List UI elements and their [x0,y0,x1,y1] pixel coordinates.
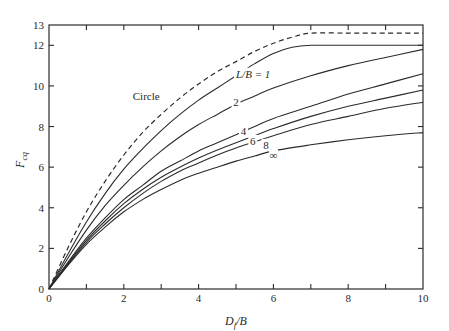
curve-l-b-6 [49,90,423,289]
y-tick-label: 13 [33,19,45,31]
y-tick-label: 10 [33,80,45,92]
curve-label: Circle [133,90,160,102]
curve-labels-group: CircleL/B = 12468∞ [133,68,278,161]
x-tick-label: 2 [121,292,127,304]
curve-label: 2 [233,96,239,108]
y-axis: 02468101213 [33,19,423,295]
x-tick-label: 6 [271,292,277,304]
breakout-factor-chart: CircleL/B = 12468∞ 0246810 02468101213 D… [0,0,449,331]
y-tick-label: 4 [39,202,45,214]
curve-l-b-8 [49,102,423,289]
y-tick-label: 2 [39,242,45,254]
curve-label: 8 [263,139,269,151]
curve-label: L/B = 1 [235,68,270,80]
curve-label: 4 [241,125,247,137]
y-tick-label: 8 [39,121,45,133]
x-tick-label: 0 [46,292,52,304]
plot-frame [49,25,423,289]
x-tick-label: 4 [196,292,202,304]
curve-l-b-infinity [49,133,423,289]
y-tick-label: 12 [33,39,44,51]
x-tick-label: 10 [418,292,430,304]
curve-l-b-1 [49,45,423,289]
x-axis-label: Df/B [224,314,248,330]
y-axis-label: Fcq [13,152,29,169]
y-tick-label: 0 [39,283,45,295]
chart-svg: CircleL/B = 12468∞ 0246810 02468101213 D… [0,0,449,331]
y-tick-label: 6 [39,161,45,173]
x-tick-label: 8 [345,292,351,304]
curve-l-b-2 [49,49,423,289]
curve-label: ∞ [269,149,277,161]
curve-label: 6 [250,135,256,147]
